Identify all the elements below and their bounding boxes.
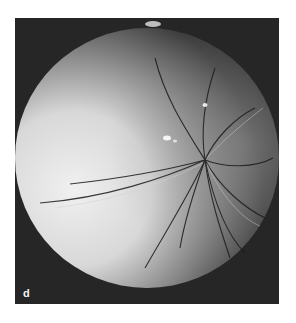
panel-label: d: [23, 288, 30, 299]
micrograph-panel: d: [15, 18, 279, 304]
sphere-micrograph: [15, 18, 279, 304]
